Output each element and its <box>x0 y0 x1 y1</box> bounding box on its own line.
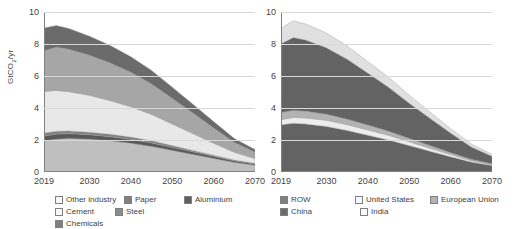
gridline <box>281 140 492 141</box>
legend-label: ROW <box>291 195 311 204</box>
legend-swatch-icon <box>360 208 368 216</box>
gridline <box>281 44 492 45</box>
legend-label: United States <box>366 195 414 204</box>
y-axis-tick-label: 4 <box>34 103 39 113</box>
y-axis-tick-label: 2 <box>34 135 39 145</box>
y-axis-label-left: GtCO2/yr <box>6 22 20 112</box>
plot-area-left: 0246810201920302040205020602070 <box>44 12 255 172</box>
x-axis-tick-label: 2050 <box>162 176 182 186</box>
gridline <box>281 12 492 13</box>
gridline <box>281 108 492 109</box>
x-axis-tick-label: 2019 <box>34 176 54 186</box>
x-axis-tick-label: 2070 <box>482 176 502 186</box>
legend-item-european-union[interactable]: European Union <box>430 194 510 205</box>
legend-label: Aluminium <box>195 195 232 204</box>
legend-item-other-industry[interactable]: Other industry <box>55 194 124 205</box>
legend-item-china[interactable]: China <box>280 206 360 217</box>
legend-swatch-icon <box>430 196 438 204</box>
x-axis-line-left <box>44 171 255 172</box>
legend-item-chemicals[interactable]: Chemicals <box>55 218 124 229</box>
legend-swatch-icon <box>184 196 192 204</box>
legend-item-steel[interactable]: Steel <box>115 206 200 217</box>
area-series-right <box>281 12 492 172</box>
legend-item-cement[interactable]: Cement <box>55 206 115 217</box>
x-axis-tick-label: 2030 <box>79 176 99 186</box>
y-axis-tick-label: 6 <box>34 71 39 81</box>
stacked-area-chart-figure: GtCO2/yr 0246810201920302040205020602070… <box>0 0 527 229</box>
y-axis-line-left <box>44 12 45 172</box>
legend-swatch-icon <box>280 196 288 204</box>
legend-label: Cement <box>66 207 94 216</box>
x-axis-tick-label: 2040 <box>358 176 378 186</box>
plot-area-right: 0246810201920302040205020602070 <box>281 12 492 172</box>
chart-panel-left: GtCO2/yr 0246810201920302040205020602070… <box>0 0 263 229</box>
y-axis-tick-label: 8 <box>34 39 39 49</box>
legend-item-india[interactable]: India <box>360 206 448 217</box>
legend-swatch-icon <box>355 196 363 204</box>
y-axis-tick-label: 10 <box>266 7 276 17</box>
gridline <box>44 108 255 109</box>
y-axis-tick-label: 10 <box>29 7 39 17</box>
legend-item-row[interactable]: ROW <box>280 194 355 205</box>
legend-item-paper[interactable]: Paper <box>124 194 184 205</box>
x-axis-tick-label: 2019 <box>271 176 291 186</box>
gridline <box>281 76 492 77</box>
chart-panel-right: 0246810201920302040205020602070 ROWUnite… <box>263 0 526 229</box>
x-axis-tick-label: 2060 <box>204 176 224 186</box>
y-axis-line-right <box>281 12 282 172</box>
x-axis-tick-label: 2070 <box>245 176 265 186</box>
legend-swatch-icon <box>115 208 123 216</box>
legend-label: China <box>291 207 312 216</box>
y-axis-tick-label: 8 <box>271 39 276 49</box>
legend-label: Chemicals <box>66 219 103 228</box>
legend-label: Paper <box>135 195 156 204</box>
x-axis-line-right <box>281 171 492 172</box>
area-series-left <box>44 12 255 172</box>
x-axis-tick-label: 2060 <box>441 176 461 186</box>
legend-swatch-icon <box>55 208 63 216</box>
legend-label: India <box>371 207 388 216</box>
legend-left: Other industryPaperAluminiumCementSteelC… <box>0 194 263 229</box>
y-axis-tick-label: 6 <box>271 71 276 81</box>
y-axis-tick-label: 2 <box>271 135 276 145</box>
legend-swatch-icon <box>124 196 132 204</box>
legend-label: Steel <box>126 207 144 216</box>
gridline <box>44 12 255 13</box>
x-axis-tick-label: 2030 <box>316 176 336 186</box>
legend-swatch-icon <box>55 220 63 228</box>
legend-right: ROWUnited StatesEuropean UnionChinaIndia <box>263 194 526 218</box>
legend-swatch-icon <box>55 196 63 204</box>
legend-item-united-states[interactable]: United States <box>355 194 430 205</box>
legend-label: European Union <box>441 195 499 204</box>
legend-label: Other industry <box>66 195 116 204</box>
y-axis-tick-label: 4 <box>271 103 276 113</box>
legend-swatch-icon <box>280 208 288 216</box>
gridline <box>44 76 255 77</box>
x-axis-tick-label: 2040 <box>121 176 141 186</box>
x-axis-tick-label: 2050 <box>399 176 419 186</box>
gridline <box>44 44 255 45</box>
legend-item-aluminium[interactable]: Aluminium <box>184 194 253 205</box>
gridline <box>44 140 255 141</box>
